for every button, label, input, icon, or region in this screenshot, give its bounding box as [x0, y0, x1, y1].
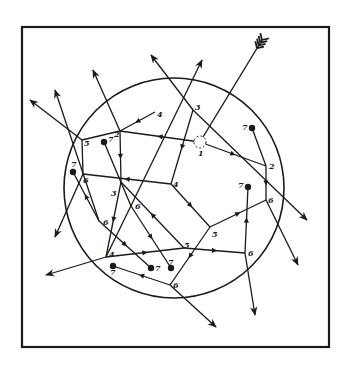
edge	[120, 131, 200, 142]
edge	[210, 200, 266, 227]
terminal-dot	[101, 139, 107, 145]
node-label: 3	[195, 102, 201, 112]
edge	[55, 90, 99, 221]
edge	[151, 55, 193, 110]
node-label: 2	[268, 161, 275, 171]
network-diagram: 12233444555666666 7777777	[0, 0, 351, 369]
edge	[93, 70, 120, 131]
entry-arrow	[194, 33, 269, 148]
fletching	[262, 38, 269, 40]
edge	[245, 253, 255, 315]
terminal-dot	[148, 265, 154, 271]
edge	[99, 221, 151, 268]
node-label: 1	[198, 148, 204, 158]
node-label: 4	[157, 109, 163, 119]
edges	[30, 55, 307, 327]
fletching	[260, 33, 262, 40]
edge	[131, 206, 171, 268]
edge	[113, 266, 170, 285]
node-label: 5	[212, 229, 218, 239]
node-label: 6	[103, 217, 109, 227]
terminal-label: 7	[242, 122, 248, 132]
terminal-label: 7	[168, 257, 174, 267]
terminal-label: 7	[238, 180, 244, 190]
terminal-label: 7	[155, 263, 161, 273]
edge	[252, 128, 266, 166]
fletching	[255, 41, 257, 48]
node-label: 4	[109, 249, 115, 259]
edge	[120, 112, 155, 131]
fletching	[259, 36, 261, 43]
edge	[245, 187, 248, 253]
terminal-dot	[249, 125, 255, 131]
edge	[83, 174, 171, 184]
node-label: 4	[173, 179, 179, 189]
node-label: 3	[111, 188, 117, 198]
edge	[171, 184, 210, 227]
node-label: 6	[248, 248, 254, 258]
edge	[106, 248, 184, 257]
node-label: 6	[173, 280, 179, 290]
edge	[170, 227, 210, 285]
terminal-label: 7	[108, 134, 114, 144]
start-marker	[194, 136, 206, 148]
edge	[121, 182, 184, 248]
node-label: 6	[135, 201, 141, 211]
node-label: 5	[84, 138, 90, 148]
edge	[171, 110, 193, 184]
edge	[170, 285, 216, 327]
terminal-label: 7	[71, 159, 77, 169]
terminal-dot	[245, 184, 251, 190]
edge	[120, 131, 121, 182]
edge	[30, 100, 82, 140]
node-label: 5	[184, 240, 190, 250]
edge	[200, 142, 266, 166]
terminal-label: 7	[110, 267, 116, 277]
fletching	[257, 39, 259, 46]
node-label: 6	[83, 175, 89, 185]
terminal-dot	[70, 169, 76, 175]
node-label: 2	[113, 129, 120, 139]
node-label: 6	[268, 195, 274, 205]
